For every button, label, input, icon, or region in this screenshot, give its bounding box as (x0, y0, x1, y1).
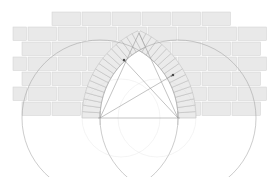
brick (22, 102, 50, 115)
brick (28, 57, 56, 70)
brick (178, 27, 206, 40)
brick (22, 72, 50, 85)
point-upper-right (172, 74, 174, 76)
brick (232, 72, 260, 85)
brick (52, 72, 80, 85)
diagram-canvas: Pointed arch geometric construction in b… (0, 0, 278, 177)
brick (13, 57, 26, 70)
brick (202, 12, 230, 25)
brick (52, 12, 80, 25)
brick (58, 57, 86, 70)
brick (28, 87, 56, 100)
brick (172, 42, 200, 55)
brick (112, 12, 140, 25)
point-upper-left (123, 59, 125, 61)
brick (202, 42, 230, 55)
brick (202, 102, 230, 115)
brick (208, 27, 236, 40)
brick (208, 87, 236, 100)
brick (82, 12, 110, 25)
brick (82, 42, 110, 55)
brick (208, 57, 236, 70)
brick (58, 87, 86, 100)
brick (13, 27, 26, 40)
brick (172, 12, 200, 25)
brick (52, 102, 80, 115)
arch-construction-svg: Pointed arch geometric construction in b… (0, 0, 278, 177)
brick (58, 27, 86, 40)
brick (202, 72, 230, 85)
brick (88, 27, 116, 40)
brick (238, 57, 266, 70)
brick (22, 42, 50, 55)
brick (142, 12, 170, 25)
brick (28, 27, 56, 40)
brick (238, 27, 266, 40)
brick (232, 42, 260, 55)
